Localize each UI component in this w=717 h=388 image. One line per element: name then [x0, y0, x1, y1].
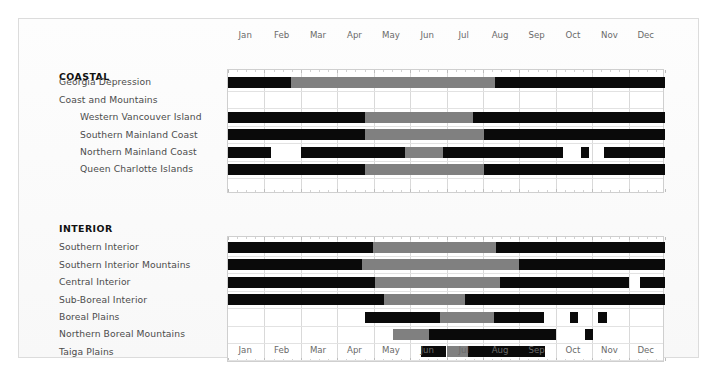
axis-tick [629, 70, 630, 73]
row-label: Boreal Plains [59, 311, 119, 322]
month-label-feb: Feb [274, 345, 289, 355]
row-label: Central Interior [59, 276, 131, 287]
month-label-jul: Jul [459, 345, 469, 355]
row-label: Queen Charlotte Islands [80, 163, 193, 174]
axis-tick [574, 190, 575, 192]
row-label: Sub-Boreal Interior [59, 294, 147, 305]
axis-tick [556, 237, 557, 240]
axis-tick [483, 237, 484, 240]
axis-tick [528, 190, 529, 192]
timeline-segment-grey [440, 312, 494, 323]
timeline-segment-black [570, 312, 578, 323]
axis-tick [264, 189, 265, 192]
axis-tick [574, 70, 575, 72]
month-label-dec: Dec [637, 345, 654, 355]
axis-tick [619, 190, 620, 192]
axis-tick [638, 237, 639, 239]
axis-tick [328, 70, 329, 72]
axis-tick [583, 237, 584, 239]
axis-tick [629, 189, 630, 192]
axis-tick [592, 189, 593, 192]
axis-tick [346, 190, 347, 192]
axis-tick [647, 190, 648, 192]
timeline-segment-black [473, 112, 665, 123]
timeline-segment-black [500, 277, 629, 288]
row-gridline [228, 360, 663, 361]
axis-tick [456, 190, 457, 192]
axis-tick [319, 70, 320, 72]
axis-tick [228, 189, 229, 192]
axis-tick [301, 189, 302, 192]
timeline-segment-black [228, 147, 271, 158]
axis-tick [510, 237, 511, 239]
month-label-dec: Dec [637, 30, 654, 40]
timeline-segment-black [585, 329, 593, 340]
row-gridline [228, 108, 663, 109]
timeline-segment-grey [375, 277, 500, 288]
timeline-bar [228, 147, 665, 158]
timeline-segment-black [365, 312, 441, 323]
timeline-segment-grey [365, 112, 473, 123]
axis-tick [301, 237, 302, 240]
axis-tick [592, 237, 593, 240]
axis-tick [246, 190, 247, 192]
timeline-segment-black [443, 147, 563, 158]
timeline-bar [228, 112, 665, 123]
axis-tick [374, 237, 375, 240]
axis-tick [392, 190, 393, 192]
timeline-segment-black [228, 259, 362, 270]
axis-tick [310, 70, 311, 72]
axis-tick [501, 190, 502, 192]
axis-tick [610, 70, 611, 72]
axis-tick [447, 70, 448, 73]
axis-tick [292, 237, 293, 239]
axis-tick [456, 237, 457, 239]
timeline-segment-grey [373, 242, 496, 253]
row-label: Georgia Depression [59, 76, 151, 87]
timeline-segment-black [228, 294, 384, 305]
axis-tick [528, 70, 529, 72]
axis-tick [401, 190, 402, 192]
axis-tick [519, 189, 520, 192]
axis-tick [355, 190, 356, 192]
axis-tick [319, 237, 320, 239]
axis-tick [447, 189, 448, 192]
timeline-segment-black [519, 259, 665, 270]
axis-tick [492, 190, 493, 192]
axis-tick [428, 237, 429, 239]
axis-tick [528, 237, 529, 239]
axis-tick [401, 237, 402, 239]
axis-tick [519, 70, 520, 73]
timeline-segment-black [495, 77, 665, 88]
axis-tick [656, 190, 657, 192]
row-label: Western Vancouver Island [80, 111, 202, 122]
axis-tick [547, 190, 548, 192]
row-gridline [228, 126, 663, 127]
axis-tick [274, 70, 275, 72]
timeline-bar [228, 329, 665, 340]
axis-tick [629, 237, 630, 240]
axis-tick [337, 189, 338, 192]
axis-tick [465, 70, 466, 72]
axis-tick [465, 237, 466, 239]
row-gridline [228, 161, 663, 162]
row-gridline [228, 326, 663, 327]
row-label: Northern Mainland Coast [80, 146, 197, 157]
axis-tick [264, 237, 265, 240]
axis-tick [447, 237, 448, 240]
row-gridline [228, 308, 663, 309]
axis-tick [383, 190, 384, 192]
month-label-jun: Jun [421, 345, 434, 355]
axis-tick [483, 189, 484, 192]
timeline-segment-black [228, 277, 375, 288]
axis-tick [656, 70, 657, 72]
section-heading-interior: INTERIOR [59, 223, 113, 234]
axis-tick [647, 237, 648, 239]
axis-tick [665, 70, 666, 73]
axis-tick [665, 237, 666, 240]
timeline-segment-black [604, 147, 665, 158]
axis-tick [583, 70, 584, 72]
month-label-sep: Sep [528, 30, 544, 40]
timeline-segment-grey [365, 129, 484, 140]
axis-tick [538, 190, 539, 192]
